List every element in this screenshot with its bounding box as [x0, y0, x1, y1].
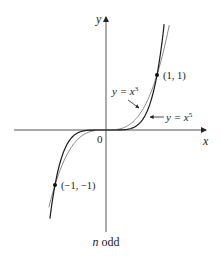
caption: n odd: [93, 235, 120, 249]
point-neg1-neg1: [53, 183, 57, 187]
label-y-equals-x-cubed: y = x3: [111, 85, 139, 97]
point-1-1: [155, 73, 159, 77]
origin-label: 0: [97, 133, 103, 145]
label-y-equals-x-fifth: y = x5: [165, 111, 193, 123]
point-label-neg1-neg1: (−1, −1): [61, 180, 96, 192]
point-label-1-1: (1, 1): [163, 70, 186, 82]
pointer-arrow-x-cubed: [128, 100, 139, 108]
x-axis-label: x: [202, 134, 209, 148]
power-function-graph: y x 0 (1, 1) (−1, −1) y = x3 y = x5 n od…: [0, 0, 220, 256]
y-axis-label: y: [95, 12, 102, 26]
